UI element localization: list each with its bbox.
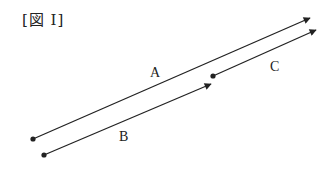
vector-a: A (30, 18, 310, 142)
vector-b-label: B (119, 129, 128, 144)
vector-b-start-dot (41, 152, 46, 157)
vector-diagram: A B C (0, 0, 336, 174)
vector-c-start-dot (210, 73, 215, 78)
vector-c-label: C (270, 59, 279, 74)
vector-a-line (33, 18, 310, 139)
vector-b: B (41, 84, 211, 158)
vector-a-start-dot (30, 136, 35, 141)
vector-a-label: A (150, 65, 161, 80)
vector-b-line (44, 84, 211, 155)
